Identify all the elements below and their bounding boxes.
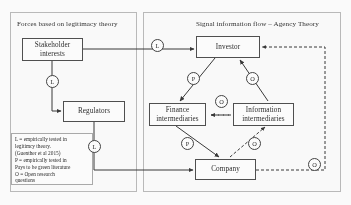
badge-finance-to-company: P bbox=[181, 137, 194, 150]
node-company[interactable]: Company bbox=[195, 159, 256, 180]
legend-line-1: L = empirically tested in bbox=[15, 136, 89, 143]
legend-line-5: Pays to be green literature bbox=[15, 164, 89, 171]
badge-company-to-investor: O bbox=[308, 158, 321, 171]
node-stakeholder-interests[interactable]: Stakeholder interests bbox=[22, 38, 83, 61]
node-information-intermediaries[interactable]: Information intermediaries bbox=[233, 103, 294, 126]
legend-line-6: O = Open research bbox=[15, 171, 89, 178]
badge-stakeholder-to-regulators: L bbox=[46, 75, 59, 88]
diagram-canvas: Forces based on legitimacy theory Signal… bbox=[0, 0, 351, 205]
legend-line-2: legitimcy theory. bbox=[15, 143, 89, 150]
badge-company-to-information: O bbox=[248, 137, 261, 150]
badge-regulators-to-company: L bbox=[88, 140, 101, 153]
node-investor[interactable]: Investor bbox=[196, 36, 260, 58]
badge-stakeholder-to-investor: L bbox=[151, 39, 164, 52]
node-regulators[interactable]: Regulators bbox=[63, 101, 125, 122]
legend-line-4: P = empirically tested in bbox=[15, 157, 89, 164]
legend-line-7: questions bbox=[15, 177, 89, 184]
badge-investor-to-finance: P bbox=[187, 72, 200, 85]
legend-box: L = empirically tested in legitimcy theo… bbox=[11, 133, 93, 185]
badge-finance-information: O bbox=[215, 95, 228, 108]
legend-line-3: (Guenther et al 2015) bbox=[15, 150, 89, 157]
node-finance-intermediaries[interactable]: Finance intermediaries bbox=[149, 103, 206, 126]
badge-information-to-investor: O bbox=[246, 72, 259, 85]
